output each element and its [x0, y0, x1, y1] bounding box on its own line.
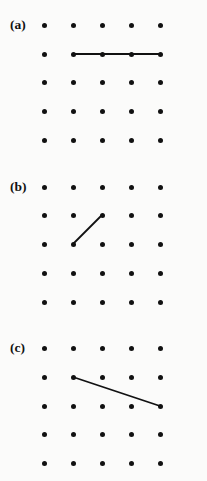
- shallow-segment-down-right: [73, 377, 160, 406]
- panel-c-segments: [0, 0, 207, 481]
- dot-lattice-figure: (a) (b) (c): [0, 0, 207, 481]
